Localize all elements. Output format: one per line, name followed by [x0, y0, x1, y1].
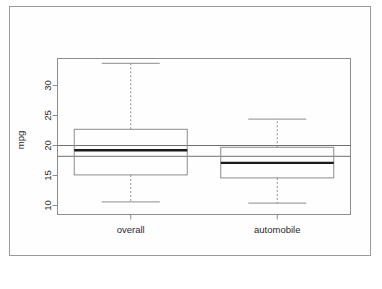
boxplot-figure: 1015202530 mpg overallautomobile	[0, 0, 382, 289]
y-tick-label-30: 30	[42, 80, 53, 91]
plot-frame	[58, 59, 351, 215]
y-axis-tick-labels: 1015202530	[42, 80, 53, 211]
box-iqr	[74, 129, 187, 175]
y-tick-label-10: 10	[42, 200, 53, 211]
x-axis-category-labels: overallautomobile	[117, 224, 301, 235]
y-tick-label-15: 15	[42, 170, 53, 181]
boxplot-automobile	[221, 119, 334, 203]
category-label-automobile: automobile	[254, 224, 300, 235]
x-axis-ticks	[131, 215, 278, 220]
y-axis-ticks	[53, 86, 58, 206]
y-axis-title: mpg	[15, 131, 26, 149]
y-tick-label-25: 25	[42, 110, 53, 121]
boxplot-canvas: 1015202530 mpg overallautomobile	[0, 0, 382, 289]
y-tick-label-20: 20	[42, 140, 53, 151]
category-label-overall: overall	[117, 224, 145, 235]
box-group	[74, 63, 334, 203]
boxplot-overall	[74, 63, 187, 202]
